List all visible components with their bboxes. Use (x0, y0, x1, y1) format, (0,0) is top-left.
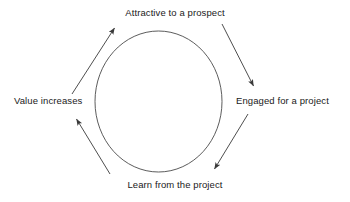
cycle-diagram: Attractive to a prospect Engaged for a p… (0, 0, 350, 202)
node-label-learn: Learn from the project (0, 179, 350, 191)
node-label-value: Value increases (14, 95, 82, 107)
arrow-value-to-attractive (72, 28, 115, 94)
arrow-attractive-to-engaged (222, 24, 254, 86)
arrow-learn-to-value (77, 119, 111, 174)
node-label-attractive: Attractive to a prospect (0, 7, 350, 19)
node-label-engaged: Engaged for a project (236, 95, 329, 107)
center-circle (95, 31, 222, 172)
